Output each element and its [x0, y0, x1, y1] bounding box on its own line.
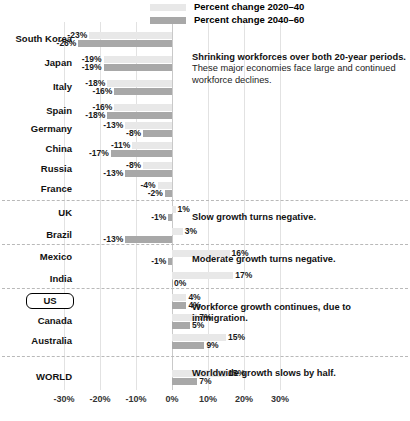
- axis-tick-6: 30%: [263, 394, 297, 404]
- legend-swatch-s1: [150, 4, 186, 11]
- bar-spain-s2: [107, 112, 172, 119]
- annotation-title-workforce-growth: Workforce growth continues, due to immig…: [192, 302, 407, 325]
- legend-swatch-s2: [150, 17, 186, 24]
- bar-uk-s1: [172, 206, 176, 213]
- category-label-uk: UK: [0, 207, 72, 219]
- bar-uk-s2: [168, 214, 172, 221]
- category-label-india: India: [0, 273, 72, 285]
- category-label-spain: Spain: [0, 105, 72, 117]
- axis-tick-0: -30%: [47, 394, 81, 404]
- annotation-worldwide: Worldwide growth slows by half.: [192, 368, 407, 379]
- category-label-japan: Japan: [0, 57, 72, 69]
- bar-china-s2: [111, 150, 172, 157]
- axis-tick-4: 10%: [191, 394, 225, 404]
- axis-tick-3: 0%: [155, 394, 189, 404]
- value-label-germany-s2: -8%: [120, 129, 141, 138]
- value-label-brazil-s2: -13%: [102, 235, 123, 244]
- bar-germany-s2: [143, 130, 172, 137]
- bar-brazil-s2: [125, 236, 172, 243]
- axis-tick-2: -10%: [119, 394, 153, 404]
- bar-south-korea-s2: [78, 40, 172, 47]
- annotation-title-worldwide: Worldwide growth slows by half.: [192, 368, 407, 379]
- value-label-brazil-s1: 3%: [185, 227, 197, 236]
- value-label-india-s1: 17%: [235, 271, 252, 280]
- bar-spain-s1: [114, 104, 172, 111]
- axis-tick-1: -20%: [83, 394, 117, 404]
- value-label-south-korea-s2: -26%: [55, 39, 76, 48]
- value-label-uk-s1: 1%: [178, 205, 190, 214]
- value-label-mexico-s2: -1%: [145, 257, 166, 266]
- category-label-mexico: Mexico: [0, 251, 72, 263]
- bar-italy-s1: [107, 80, 172, 87]
- annotation-title-shrinking: Shrinking workforces over both 20-year p…: [192, 52, 407, 63]
- axis-tick-5: 20%: [227, 394, 261, 404]
- value-label-australia-s1: 15%: [228, 333, 245, 342]
- bar-italy-s2: [114, 88, 172, 95]
- bar-canada-s2: [172, 322, 190, 329]
- legend-label-s1: Percent change 2020–40: [194, 1, 304, 12]
- category-label-brazil: Brazil: [0, 229, 72, 241]
- value-label-russia-s1: -8%: [120, 161, 141, 170]
- annotation-workforce-growth: Workforce growth continues, due to immig…: [192, 302, 407, 325]
- group-separator-0: [2, 200, 408, 201]
- category-label-germany: Germany: [0, 123, 72, 135]
- value-label-india-s2: 0%: [174, 279, 186, 288]
- category-label-france: France: [0, 183, 72, 195]
- category-label-russia: Russia: [0, 163, 72, 175]
- value-label-japan-s2: -19%: [81, 63, 102, 72]
- value-label-australia-s2: 9%: [206, 341, 218, 350]
- bar-us-s2: [172, 302, 186, 309]
- annotation-title-slow-growth: Slow growth turns negative.: [192, 212, 407, 223]
- value-label-china-s1: -11%: [109, 141, 130, 150]
- bar-south-korea-s1: [89, 32, 172, 39]
- annotation-moderate-growth: Moderate growth turns negative.: [192, 254, 407, 265]
- legend-label-s2: Percent change 2040–60: [194, 14, 304, 25]
- bar-russia-s2: [125, 170, 172, 177]
- bar-us-s1: [172, 294, 186, 301]
- bar-france-s2: [165, 190, 172, 197]
- annotation-slow-growth: Slow growth turns negative.: [192, 212, 407, 223]
- value-label-spain-s2: -18%: [84, 111, 105, 120]
- value-label-italy-s2: -16%: [91, 87, 112, 96]
- category-label-canada: Canada: [0, 315, 72, 327]
- annotation-title-moderate-growth: Moderate growth turns negative.: [192, 254, 407, 265]
- bar-australia-s2: [172, 342, 204, 349]
- bar-china-s1: [132, 142, 172, 149]
- workforce-change-chart: Percent change 2020–40Percent change 204…: [0, 0, 410, 421]
- category-label-italy: Italy: [0, 81, 72, 93]
- value-label-france-s2: -2%: [142, 189, 163, 198]
- value-label-uk-s2: -1%: [145, 213, 166, 222]
- bar-japan-s2: [104, 64, 172, 71]
- bar-russia-s1: [143, 162, 172, 169]
- gridline--10: [136, 22, 137, 390]
- value-label-russia-s2: -13%: [102, 169, 123, 178]
- value-label-china-s2: -17%: [88, 149, 109, 158]
- category-label-china: China: [0, 143, 72, 155]
- group-separator-3: [2, 356, 408, 357]
- category-label-world: WORLD: [0, 371, 72, 383]
- category-label-us: US: [26, 293, 74, 309]
- annotation-body-shrinking: These major economies face large and con…: [192, 63, 407, 86]
- bar-japan-s1: [104, 56, 172, 63]
- bar-mexico-s2: [168, 258, 172, 265]
- group-separator-1: [2, 244, 408, 245]
- group-separator-2: [2, 288, 408, 289]
- category-label-australia: Australia: [0, 335, 72, 347]
- bar-india-s2: [172, 280, 173, 287]
- bar-brazil-s1: [172, 228, 183, 235]
- annotation-shrinking: Shrinking workforces over both 20-year p…: [192, 52, 407, 86]
